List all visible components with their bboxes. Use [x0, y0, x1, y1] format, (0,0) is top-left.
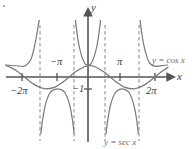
secant-cosine-graph-figure: x y −2π −π π 2π −1 y = cos x y = sec x [0, 0, 194, 149]
x-tick-label-pi: π [117, 57, 122, 68]
x-tick-label-neg-pi: −π [50, 57, 62, 68]
x-tick-label-neg-2pi: −2π [10, 86, 28, 97]
plot-canvas [0, 0, 194, 149]
y-axis-label: y [91, 2, 96, 13]
asymptote-group [40, 25, 139, 141]
y-tick-label-neg-one: −1 [72, 84, 84, 95]
sec-branch-neg-pi [41, 89, 74, 134]
cosine-curve-label: y = cos x [152, 56, 185, 65]
x-axis-label: x [177, 71, 182, 82]
secant-curve-label: y = sec x [104, 138, 136, 147]
sec-branch-pi [106, 89, 138, 134]
x-tick-label-2pi: 2π [146, 86, 157, 97]
sec-branch-neg-2pi [6, 20, 40, 66]
